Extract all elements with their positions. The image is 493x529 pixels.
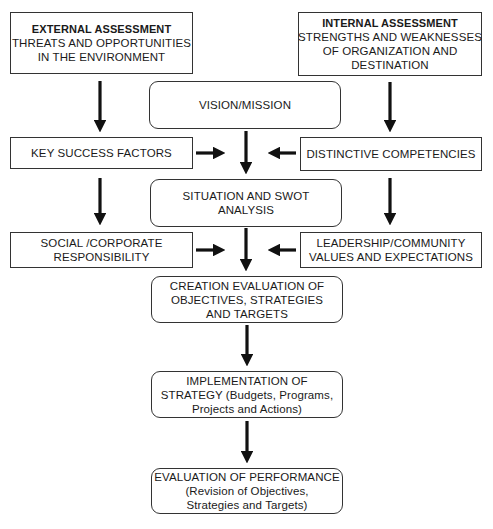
internal-assessment-line-3: DESTINATION (351, 58, 429, 72)
creation-evaluation-line-1: CREATION EVALUATION OF (170, 279, 324, 293)
key-success-factors-box: KEY SUCCESS FACTORS (10, 137, 193, 169)
social-corporate-line-2: RESPONSIBILITY (54, 250, 150, 264)
implementation-line-2: STRATEGY (Budgets, Programs, (161, 388, 333, 402)
situation-swot-line-1: SITUATION AND SWOT (183, 189, 310, 203)
internal-assessment-line-2: OF ORGANIZATION AND (323, 44, 458, 58)
vision-mission-box: VISION/MISSION (149, 81, 341, 129)
creation-evaluation-line-3: AND TARGETS (206, 307, 288, 321)
creation-evaluation-line-2: OBJECTIVES, STRATEGIES (171, 293, 323, 307)
social-corporate-line-1: SOCIAL /CORPORATE (41, 236, 163, 250)
external-assessment-line-2: IN THE ENVIRONMENT (38, 50, 165, 64)
internal-assessment-line-1: STRENGTHS AND WEAKNESSES (298, 30, 482, 44)
external-assessment-box: EXTERNAL ASSESSMENT THREATS AND OPPORTUN… (10, 12, 193, 74)
creation-evaluation-box: CREATION EVALUATION OF OBJECTIVES, STRAT… (151, 276, 343, 323)
implementation-line-1: IMPLEMENTATION OF (186, 374, 307, 388)
evaluation-performance-box: EVALUATION OF PERFORMANCE (Revision of O… (151, 468, 343, 514)
leadership-community-line-1: LEADERSHIP/COMMUNITY (317, 236, 466, 250)
social-corporate-box: SOCIAL /CORPORATE RESPONSIBILITY (10, 232, 193, 268)
distinctive-competencies-box: DISTINCTIVE COMPETENCIES (300, 137, 482, 171)
leadership-community-line-2: VALUES AND EXPECTATIONS (309, 250, 473, 264)
evaluation-performance-line-1: EVALUATION OF PERFORMANCE (154, 470, 339, 484)
situation-swot-line-2: ANALYSIS (218, 203, 274, 217)
vision-mission-label: VISION/MISSION (199, 98, 291, 112)
internal-assessment-box: INTERNAL ASSESSMENT STRENGTHS AND WEAKNE… (298, 12, 482, 76)
evaluation-performance-line-2: (Revision of Objectives, (185, 484, 308, 498)
evaluation-performance-line-3: Strategies and Targets) (187, 498, 308, 512)
external-assessment-heading: EXTERNAL ASSESSMENT (32, 22, 171, 36)
implementation-box: IMPLEMENTATION OF STRATEGY (Budgets, Pro… (151, 371, 343, 418)
internal-assessment-heading: INTERNAL ASSESSMENT (322, 16, 458, 30)
distinctive-competencies-label: DISTINCTIVE COMPETENCIES (306, 147, 475, 161)
external-assessment-line-1: THREATS AND OPPORTUNITIES (12, 36, 191, 50)
implementation-line-3: Projects and Actions) (192, 402, 302, 416)
situation-swot-box: SITUATION AND SWOT ANALYSIS (150, 179, 342, 227)
key-success-factors-label: KEY SUCCESS FACTORS (31, 146, 172, 160)
leadership-community-box: LEADERSHIP/COMMUNITY VALUES AND EXPECTAT… (300, 232, 482, 268)
